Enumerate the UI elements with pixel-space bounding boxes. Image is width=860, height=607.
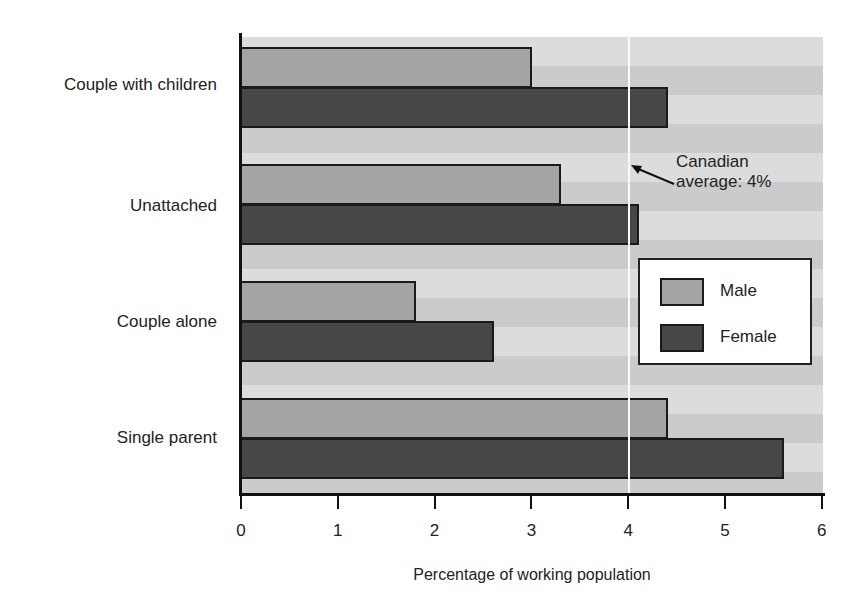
x-tick-label: 1 xyxy=(323,521,353,541)
category-label-single-parent: Single parent xyxy=(117,428,217,448)
x-tick xyxy=(530,495,532,509)
bar-male-couple-alone xyxy=(240,281,416,322)
x-tick xyxy=(337,495,339,509)
x-tick-label: 2 xyxy=(420,521,450,541)
category-label-couple-with-children: Couple with children xyxy=(64,75,217,95)
x-axis-label: Percentage of working population xyxy=(241,566,823,584)
bar-female-couple-with-children xyxy=(240,87,668,128)
x-tick xyxy=(240,495,242,509)
x-tick-label: 6 xyxy=(807,521,837,541)
annotation-line-2: average: 4% xyxy=(676,172,771,192)
bar-male-unattached xyxy=(240,164,561,205)
x-tick xyxy=(627,495,629,509)
category-label-couple-alone: Couple alone xyxy=(117,312,217,332)
x-tick-label: 0 xyxy=(226,521,256,541)
x-tick xyxy=(434,495,436,509)
legend: Male Female xyxy=(638,258,812,365)
x-tick xyxy=(821,495,823,509)
category-label-unattached: Unattached xyxy=(130,196,217,216)
legend-swatch-female xyxy=(660,324,704,352)
bar-female-unattached xyxy=(240,204,639,245)
bar-male-couple-with-children xyxy=(240,47,532,88)
canadian-average-line xyxy=(628,37,630,493)
y-axis xyxy=(239,33,242,496)
x-tick-label: 4 xyxy=(613,521,643,541)
annotation-arrow-icon xyxy=(628,160,678,190)
legend-swatch-male xyxy=(660,278,704,306)
canadian-average-annotation: Canadian average: 4% xyxy=(676,152,771,192)
bar-female-couple-alone xyxy=(240,321,494,362)
x-tick-label: 5 xyxy=(710,521,740,541)
legend-label-female: Female xyxy=(720,327,777,347)
bar-male-single-parent xyxy=(240,398,668,439)
annotation-line-1: Canadian xyxy=(676,152,771,172)
legend-label-male: Male xyxy=(720,281,757,301)
x-tick-label: 3 xyxy=(516,521,546,541)
bar-female-single-parent xyxy=(240,438,784,479)
x-tick xyxy=(724,495,726,509)
